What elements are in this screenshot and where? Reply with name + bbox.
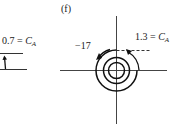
arrowhead-icon	[3, 56, 8, 61]
left-value: 0.7	[2, 35, 15, 46]
right-symbol-letter: C	[158, 31, 165, 42]
left-subscript: A	[32, 40, 36, 48]
right-subscript: A	[165, 36, 169, 44]
left-value-label: 0.7 = CA	[2, 36, 36, 48]
panel-label: (f)	[61, 4, 71, 14]
diagram-graphics	[0, 0, 186, 137]
left-fragment	[0, 54, 27, 70]
left-symbol: CA	[25, 35, 36, 46]
left-symbol-letter: C	[25, 35, 32, 46]
right-symbol: CA	[158, 31, 169, 42]
neg-value-label: −17	[75, 41, 91, 51]
left-equals: =	[17, 35, 23, 46]
right-value-label: 1.3 = CA	[135, 32, 169, 44]
diagram-panel-f: (f) 0.7 = CA −17 1.3 = CA	[0, 0, 186, 137]
right-equals: =	[150, 31, 156, 42]
right-value: 1.3	[135, 31, 148, 42]
